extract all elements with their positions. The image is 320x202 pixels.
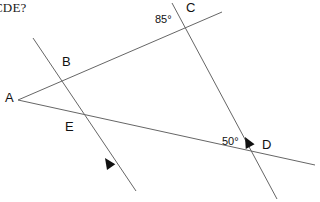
ray-a-e-d [18, 100, 315, 165]
point-label-b: B [62, 55, 71, 68]
point-label-d: D [262, 138, 271, 151]
angle-label-85: 85° [155, 14, 172, 25]
point-label-c: C [186, 1, 195, 14]
question-text-fragment: CDE? [0, 1, 27, 14]
line-through-b-e [33, 38, 136, 191]
geometry-figure [0, 0, 320, 202]
angle-label-50: 50° [222, 136, 239, 147]
point-label-e: E [65, 120, 74, 133]
parallel-arrow-cd-icon [241, 135, 255, 149]
diagram-canvas: CDE? A B C D E 85° 50° [0, 0, 320, 202]
line-through-c-d [172, 3, 277, 199]
figure-lines [18, 3, 315, 199]
ray-a-b-c [18, 12, 222, 100]
point-label-a: A [5, 91, 14, 104]
